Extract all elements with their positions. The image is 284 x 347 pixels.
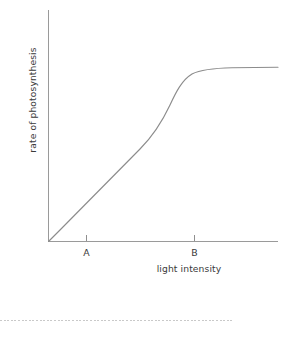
photosynthesis-light-intensity-figure: A B light intensity rate of photosynthes… [0,0,284,347]
photosynthesis-curve [49,67,279,241]
x-axis-title: light intensity [157,263,222,274]
y-axis-title: rate of photosynthesis [27,47,38,152]
x-tick-label-b: B [191,247,198,258]
x-tick-label-a: A [83,247,90,258]
chart-canvas: A B light intensity rate of photosynthes… [0,0,284,347]
